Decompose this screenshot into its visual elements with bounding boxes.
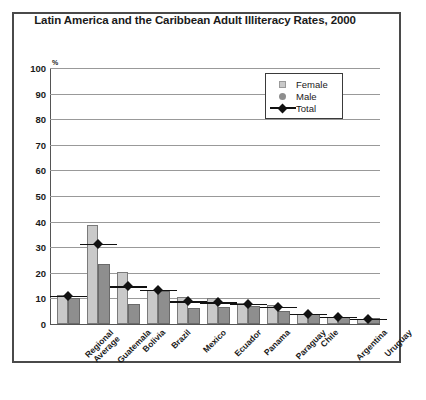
circle-swatch-icon [270,90,296,102]
y-axis-tick-label: 0 [12,319,46,330]
bar-male [218,307,230,324]
legend-label-male: Male [296,91,317,102]
gridline [50,324,380,325]
legend-label-female: Female [296,79,328,90]
y-axis-tick-label: 40 [12,216,46,227]
chart-figure: Latin America and the Caribbean Adult Il… [0,0,426,400]
bar-male [158,291,170,324]
gridline [50,196,380,197]
y-axis-tick-label: 80 [12,114,46,125]
gridline [50,68,380,69]
diamond-line-swatch-icon [270,102,296,114]
y-axis-tick-label: 20 [12,267,46,278]
square-swatch-icon [270,78,296,90]
bar-male [68,298,80,324]
chart-title: Latin America and the Caribbean Adult Il… [16,14,374,26]
legend-item-male: Male [270,90,337,102]
bar-male [128,304,140,324]
bar-male [98,264,110,324]
legend-item-female: Female [270,78,337,90]
bar-female [147,290,159,324]
y-axis-tick-label: 30 [12,242,46,253]
y-axis-tick-label: 70 [12,139,46,150]
bar-female [117,272,129,324]
gridline [50,119,380,120]
legend-item-total: Total [270,102,337,114]
y-axis-tick-label: 60 [12,165,46,176]
bar-male [278,311,290,324]
y-axis-tick-label: 90 [12,88,46,99]
gridline [50,170,380,171]
legend-label-total: Total [296,103,316,114]
gridline [50,145,380,146]
y-axis-tick-label: 50 [12,191,46,202]
chart-legend: Female Male Total [265,73,343,119]
y-axis-tick-label: 100 [12,63,46,74]
bar-male [188,308,200,324]
bar-male [248,306,260,324]
y-axis-unit-label: % [52,59,58,66]
y-axis-tick-label: 10 [12,293,46,304]
gridline [50,222,380,223]
